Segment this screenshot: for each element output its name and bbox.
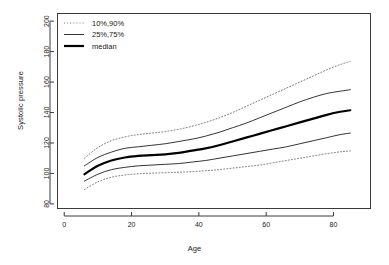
y-tick-label: 80: [43, 200, 50, 208]
y-tick-label: 160: [43, 76, 50, 88]
series-line-75pct: [84, 90, 350, 166]
x-axis: 020406080: [62, 212, 337, 228]
x-tick-label: 60: [262, 221, 270, 228]
x-tick-label: 0: [62, 221, 66, 228]
legend-label: 25%,75%: [92, 30, 124, 39]
y-tick-label: 100: [43, 168, 50, 180]
x-tick-label: 20: [128, 221, 136, 228]
quantile-line-chart: 80100120140160180200 020406080 10%,90%25…: [0, 0, 389, 265]
series-line-90pct: [84, 61, 350, 158]
chart-figure: 80100120140160180200 020406080 10%,90%25…: [0, 0, 389, 265]
y-tick-label: 200: [43, 15, 50, 27]
legend-label: 10%,90%: [92, 19, 124, 28]
chart-legend: 10%,90%25%,75%median: [64, 19, 124, 51]
legend-label: median: [92, 42, 117, 51]
x-tick-label: 40: [195, 221, 203, 228]
series-line-median: [84, 110, 350, 174]
y-tick-label: 180: [43, 46, 50, 58]
y-axis-title: Systolic pressure: [16, 51, 25, 151]
y-tick-label: 120: [43, 137, 50, 149]
y-tick-label: 140: [43, 107, 50, 119]
x-tick-label: 80: [330, 221, 338, 228]
series-layer: [84, 61, 350, 189]
y-axis: 80100120140160180200: [43, 15, 54, 208]
x-axis-title: Age: [0, 244, 389, 253]
